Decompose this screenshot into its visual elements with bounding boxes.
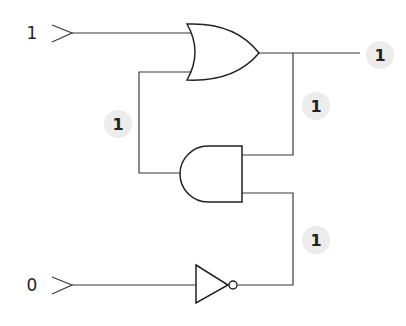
input-a-value: 1 <box>27 25 38 42</box>
or-gate-icon <box>187 24 259 80</box>
wire-not-to-and <box>238 193 293 285</box>
output-signal-badge: 1 <box>366 41 394 69</box>
input-b-value: 0 <box>27 277 38 294</box>
input-a-connector-icon <box>52 25 72 42</box>
and-gate-icon <box>180 146 242 202</box>
wire-or-to-and <box>242 53 293 155</box>
logic-circuit-diagram <box>0 0 406 326</box>
or-to-and-signal-badge: 1 <box>302 92 330 120</box>
and-feedback-signal-badge: 1 <box>104 110 132 138</box>
input-b-connector-icon <box>52 277 72 294</box>
not-bubble-icon <box>229 281 237 289</box>
not-to-and-signal-badge: 1 <box>302 226 330 254</box>
not-gate-icon <box>196 265 228 303</box>
